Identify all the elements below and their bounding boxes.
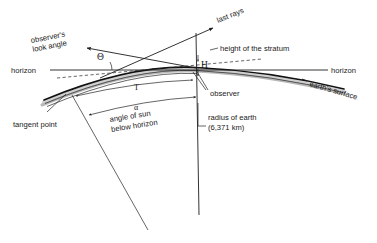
horizon-label-left: horizon [11, 66, 36, 75]
observers-look-angle-label: observer's look angle [30, 29, 68, 53]
observer-leader-line-b [193, 72, 206, 90]
angle-of-sun-label: angle of sun below horizon [109, 108, 158, 134]
radius-line-group [196, 33, 199, 215]
theta-symbol-label: Θ [97, 52, 104, 62]
radius-of-earth-label-line1: radius of earth [208, 113, 257, 122]
theta-angle-group [110, 62, 112, 70]
diagram-svg: observer's look angle Θ last rays height… [0, 0, 377, 243]
tangent-distance-symbol-label: T [134, 83, 139, 92]
earths-surface-label: earth's surface [308, 79, 358, 101]
radius-label-leader-line [198, 103, 206, 126]
horizon-label-right: horizon [331, 66, 356, 75]
radius-of-earth-label-line2: (6,371 km) [208, 123, 245, 132]
earths-surface-label-text: earth's surface [308, 79, 358, 101]
diagram-canvas: observer's look angle Θ last rays height… [0, 0, 377, 243]
height-of-stratum-label: height of the stratum [220, 44, 289, 53]
last-rays-label: last rays [215, 6, 245, 25]
observer-label: observer [210, 89, 240, 98]
tangent-point-label: tangent point [13, 120, 58, 129]
stratum-label-leader-line [210, 48, 218, 50]
stratum-height-symbol-label: H [201, 60, 208, 70]
earth-radius-vertical-line [196, 33, 199, 215]
last-rays-label-text: last rays [215, 6, 245, 25]
theta-angle-arc [110, 62, 112, 70]
earth-surface-arc-secondary [45, 70, 343, 103]
